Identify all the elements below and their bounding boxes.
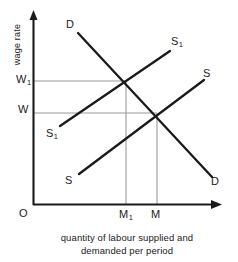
- x-tick-label-m1-sub: 1: [129, 213, 133, 222]
- curve-label-s1-bottom-sub: 1: [54, 132, 58, 141]
- curve-label-s-bottom: S: [65, 175, 73, 186]
- x-tick-label-m1-main: M: [119, 208, 128, 220]
- demand-curve-D: [78, 33, 212, 177]
- x-tick-label-m: M: [151, 209, 160, 220]
- curves: [60, 33, 212, 177]
- curve-label-s-top: S: [203, 68, 211, 79]
- figure-caption-line-1: quantity of labour supplied and: [24, 231, 230, 244]
- y-axis-label: wage rate: [13, 15, 22, 75]
- y-tick-label-w: W: [18, 104, 29, 115]
- curve-label-s1-bottom-main: S: [46, 127, 54, 139]
- curve-label-d-top: D: [66, 19, 74, 30]
- supply-curve-S: [79, 80, 204, 174]
- y-tick-label-w1-sub: 1: [27, 78, 31, 87]
- curve-label-s1-top-main: S: [171, 35, 179, 47]
- curve-label-d-bottom: D: [211, 176, 219, 187]
- curve-label-s1-top: S1: [171, 36, 183, 47]
- diagram-canvas: [0, 0, 238, 262]
- x-tick-label-m1: M1: [119, 209, 133, 220]
- curve-label-s1-bottom: S1: [46, 128, 58, 139]
- origin-label: O: [19, 208, 28, 219]
- figure-caption-line-2: demanded per period: [24, 244, 230, 257]
- y-axis-arrow-icon: [30, 10, 38, 20]
- supply-demand-figure: wage rate W1 W O M1 M D D S1 S1 S S quan…: [0, 0, 238, 262]
- guide-lines: [33, 81, 157, 205]
- axes: [33, 16, 215, 205]
- x-axis-arrow-icon: [211, 200, 222, 209]
- curve-label-s1-top-sub: 1: [179, 40, 183, 49]
- figure-caption: quantity of labour supplied and demanded…: [24, 231, 230, 257]
- y-tick-label-w1-main: W: [16, 73, 27, 85]
- y-tick-label-w1: W1: [16, 74, 31, 85]
